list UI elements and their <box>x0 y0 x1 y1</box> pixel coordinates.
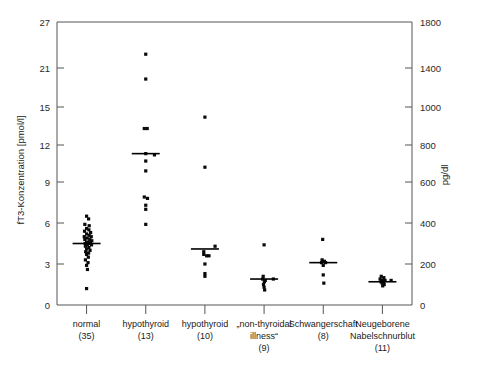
series-hypothyroid-10 <box>202 116 217 278</box>
y-tick-label-right: 400 <box>420 218 436 229</box>
data-point <box>87 228 90 231</box>
data-point <box>84 245 87 248</box>
series-Schwangerschaft <box>320 238 327 285</box>
data-point <box>144 204 147 207</box>
data-point <box>88 224 91 227</box>
data-point <box>84 250 87 253</box>
x-category-label: Schwangerschaft <box>289 319 359 329</box>
x-category-label: hypothyroid <box>122 319 169 329</box>
data-point <box>87 256 90 259</box>
x-category-count: (10) <box>197 331 213 341</box>
data-point <box>86 268 89 271</box>
data-point <box>143 195 146 198</box>
data-point <box>144 159 147 162</box>
data-point <box>83 230 86 233</box>
x-axis-category-labels: normal(35)hypothyroid(13)hypothyroid(10)… <box>73 319 416 353</box>
data-point <box>144 208 147 211</box>
data-point <box>262 243 265 246</box>
series-hypothyroid-13 <box>143 53 156 226</box>
data-point <box>143 127 146 130</box>
data-point <box>203 272 206 275</box>
data-point <box>213 245 216 248</box>
data-point <box>202 250 205 253</box>
data-point <box>262 286 265 289</box>
y-tick-label-left: 27 <box>39 17 50 28</box>
data-point <box>86 261 89 264</box>
data-point <box>203 166 206 169</box>
x-category-count: (13) <box>138 331 154 341</box>
y-axis-title-right: pg/dl <box>439 165 450 186</box>
data-point <box>203 116 206 119</box>
y-axis-ticks: 0369121521270200400600800100014001800 <box>39 17 441 315</box>
data-point <box>203 262 206 265</box>
x-category-label: hypothyroid <box>182 319 229 329</box>
data-point <box>263 288 266 291</box>
x-category-count: (8) <box>318 331 329 341</box>
x-category-label: Neugeborene <box>355 319 410 329</box>
x-category-count: (9) <box>259 343 270 353</box>
data-point <box>207 254 210 257</box>
data-point <box>83 238 86 241</box>
data-point <box>263 280 266 283</box>
data-points-layer <box>83 53 393 292</box>
data-point <box>322 282 325 285</box>
data-point <box>144 77 147 80</box>
data-point <box>85 287 88 290</box>
x-category-label: illness“ <box>250 331 278 341</box>
y-tick-label-right: 1800 <box>420 17 441 28</box>
data-point <box>382 276 385 279</box>
y-axis-title-left: fT3-Konzentration [pmol/l] <box>15 116 26 225</box>
median-bars-layer <box>73 154 397 282</box>
y-tick-label-right: 1000 <box>420 102 441 113</box>
x-category-label: normal <box>73 319 101 329</box>
data-point <box>83 223 86 226</box>
y-tick-label-right: 800 <box>420 140 436 151</box>
x-category-label: „non-thyroidal <box>237 319 292 329</box>
series-non-thyroidal-illness <box>261 243 275 291</box>
data-point <box>203 275 206 278</box>
y-tick-label-right: 200 <box>420 259 436 270</box>
data-point <box>262 283 265 286</box>
data-point <box>83 235 86 238</box>
y-tick-label-left: 15 <box>39 102 50 113</box>
y-tick-label-left: 6 <box>45 218 50 229</box>
y-tick-label-right: 600 <box>420 177 436 188</box>
x-category-count: (35) <box>79 331 95 341</box>
data-point <box>144 169 147 172</box>
series-normal <box>83 215 94 291</box>
data-point <box>85 215 88 218</box>
data-point <box>88 249 91 252</box>
data-point <box>85 264 88 267</box>
data-point <box>146 127 149 130</box>
axes-layer <box>57 22 412 305</box>
data-point <box>87 217 90 220</box>
data-point <box>90 235 93 238</box>
data-point <box>85 247 88 250</box>
y-tick-label-left: 12 <box>39 140 50 151</box>
y-tick-label-left: 9 <box>45 177 50 188</box>
data-point <box>262 275 265 278</box>
y-tick-label-left: 21 <box>39 63 50 74</box>
data-point <box>89 231 92 234</box>
data-point <box>146 197 149 200</box>
y-tick-label-left: 0 <box>45 300 50 311</box>
dot-plot-chart: fT3-Konzentration [pmol/l] pg/dl 0369121… <box>0 0 479 371</box>
data-point <box>381 284 384 287</box>
data-point <box>322 264 325 267</box>
data-point <box>144 53 147 56</box>
data-point <box>85 253 88 256</box>
chart-figure: fT3-Konzentration [pmol/l] pg/dl 0369121… <box>0 0 479 371</box>
data-point <box>321 238 324 241</box>
data-point <box>84 258 87 261</box>
x-category-label: Nabelschnurblut <box>350 331 416 341</box>
y-tick-label-right: 1400 <box>420 63 441 74</box>
data-point <box>144 223 147 226</box>
data-point <box>322 273 325 276</box>
x-category-count: (11) <box>375 343 390 353</box>
y-tick-label-right: 0 <box>420 300 425 311</box>
data-point <box>202 253 205 256</box>
y-tick-label-left: 3 <box>45 259 50 270</box>
